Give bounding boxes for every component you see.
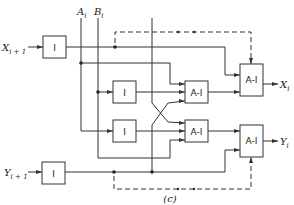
dashed-feedback-bottom xyxy=(114,157,251,189)
figure-caption: (c) xyxy=(163,193,177,204)
wire-cross-1 xyxy=(152,18,185,123)
inverter-upper-label: I xyxy=(123,88,126,98)
wire-cross-2 xyxy=(152,101,185,172)
and-invert-y-out-label: A-I xyxy=(246,136,258,146)
inverter-x-next-label: I xyxy=(53,43,56,53)
junction-dot xyxy=(112,170,116,174)
output-x-label: Xi xyxy=(279,79,289,93)
arrow-icon xyxy=(234,90,240,94)
arrow-icon xyxy=(179,90,185,94)
ellipsis-dot xyxy=(177,31,179,33)
ellipsis-dot xyxy=(193,31,195,33)
and-invert-x-out-label: A-I xyxy=(246,75,258,85)
arrow-icon xyxy=(36,170,42,174)
inverter-y-next-label: I xyxy=(52,169,55,179)
junction-dot xyxy=(113,45,117,49)
inverter-lower-label: I xyxy=(123,127,126,137)
arrow-icon xyxy=(107,129,113,133)
input-y-next-label: Yi + 1 xyxy=(4,167,28,181)
arrow-icon xyxy=(272,82,278,86)
arrow-icon xyxy=(234,148,240,152)
arrow-icon xyxy=(107,90,113,94)
wire-x-inv-out xyxy=(66,47,240,75)
and-invert-lower-label: A-I xyxy=(191,127,203,137)
input-b-label: Bi xyxy=(93,6,104,20)
arrow-icon xyxy=(37,45,43,49)
arrow-icon xyxy=(234,129,240,133)
arrow-icon xyxy=(249,58,253,64)
arrow-icon xyxy=(179,82,185,86)
logic-diagram: I I I A-I A-I A-I Xi A-I xyxy=(0,0,294,205)
arrow-icon xyxy=(272,139,278,143)
arrow-icon xyxy=(179,99,185,103)
arrow-icon xyxy=(249,157,253,163)
arrow-icon xyxy=(234,73,240,77)
wire-b-to-ai2 xyxy=(98,140,185,158)
input-a-label: Ai xyxy=(76,6,86,20)
dashed-feedback-top xyxy=(115,32,251,64)
ellipsis-dot xyxy=(193,188,195,190)
output-y-label: Yi xyxy=(280,136,289,150)
input-x-next-label: Xi + 1 xyxy=(1,42,26,56)
and-invert-upper-label: A-I xyxy=(191,88,203,98)
junction-dot xyxy=(150,170,154,174)
arrow-icon xyxy=(179,129,185,133)
arrow-icon xyxy=(179,138,185,142)
ellipsis-dot xyxy=(177,188,179,190)
arrow-icon xyxy=(179,121,185,125)
